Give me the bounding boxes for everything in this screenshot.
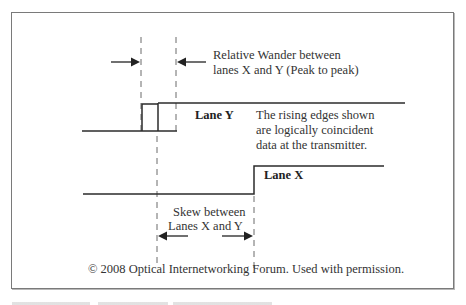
- wander-label-line2: lanes X and Y (Peak to peak): [213, 63, 359, 78]
- lane-x-waveform: [83, 166, 384, 194]
- wander-label-line1: Relative Wander between: [213, 48, 341, 63]
- skew-label-line2: Lanes X and Y: [168, 219, 243, 234]
- note-line3: data at the transmitter.: [256, 138, 367, 153]
- clipped-caption: [12, 297, 272, 305]
- copyright-notice: © 2008 Optical Internetworking Forum. Us…: [88, 262, 404, 277]
- lane-y-label: Lane Y: [195, 108, 234, 123]
- wander-arrow-right: [177, 58, 206, 67]
- wander-arrow-left: [111, 58, 140, 67]
- note-line1: The rising edges shown: [256, 108, 374, 123]
- note-line2: are logically coincident: [256, 123, 373, 138]
- skew-label-line1: Skew between: [173, 205, 246, 220]
- timing-diagram: [0, 0, 466, 305]
- lane-x-label: Lane X: [264, 168, 303, 183]
